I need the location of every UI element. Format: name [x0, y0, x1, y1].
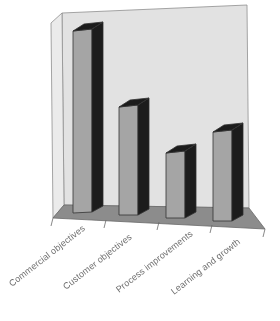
bar-process-improvements[interactable] — [166, 144, 196, 218]
bar-front-face — [119, 105, 138, 215]
bar-side-face — [185, 144, 196, 218]
bar-side-face — [138, 98, 149, 215]
bar-front-face — [213, 130, 232, 221]
bar-commercial-objectives[interactable] — [73, 22, 103, 213]
bar-chart-3d: Commercial objectives Customer objective… — [0, 0, 280, 321]
bar-front-face — [73, 29, 92, 213]
x-axis-labels: Commercial objectives Customer objective… — [7, 223, 242, 297]
x-axis-tick — [51, 218, 53, 226]
x-axis-tick — [104, 220, 106, 228]
bar-learning-and-growth[interactable] — [213, 123, 243, 221]
bar-side-face — [92, 22, 103, 212]
plot-left-wall — [51, 13, 64, 218]
bar-customer-objectives[interactable] — [119, 98, 149, 215]
x-axis-tick — [263, 229, 265, 237]
bar-front-face — [166, 151, 185, 218]
bar-side-face — [232, 123, 243, 221]
chart-container: Commercial objectives Customer objective… — [0, 0, 280, 321]
